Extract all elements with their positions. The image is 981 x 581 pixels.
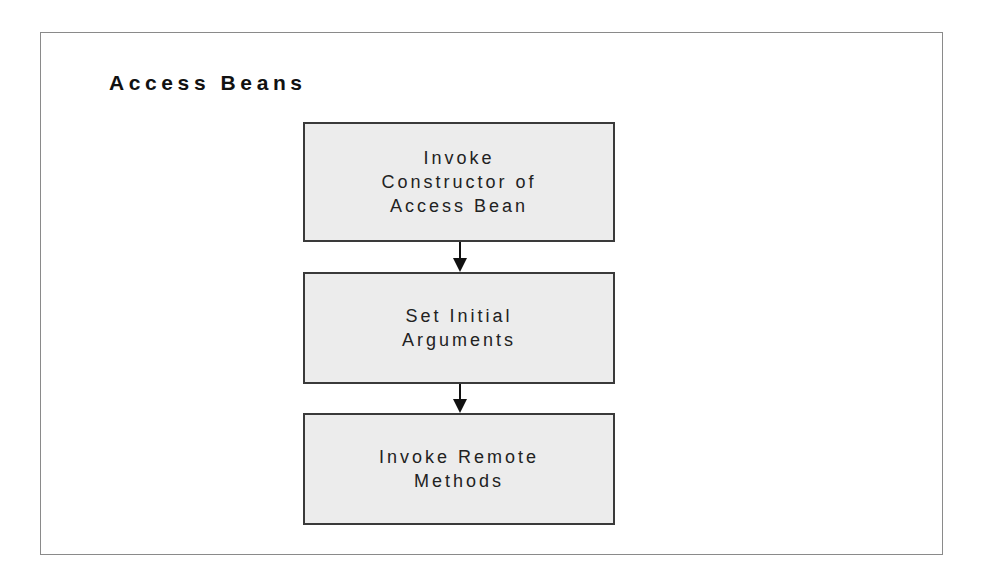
step-box-invoke-remote-methods: Invoke Remote Methods — [303, 413, 615, 525]
step-label: Set Initial Arguments — [402, 304, 516, 352]
arrow-down-icon — [452, 384, 468, 413]
step-box-invoke-constructor: Invoke Constructor of Access Bean — [303, 122, 615, 242]
arrow-down-icon — [452, 242, 468, 272]
step-box-set-initial-arguments: Set Initial Arguments — [303, 272, 615, 384]
diagram-title: Access Beans — [109, 71, 307, 95]
step-label: Invoke Constructor of Access Bean — [381, 146, 536, 218]
step-label: Invoke Remote Methods — [379, 445, 539, 493]
